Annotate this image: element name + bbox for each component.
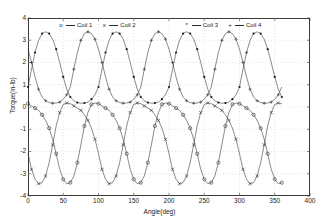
legend-marker-circle-icon: o xyxy=(58,22,64,28)
legend-item-coil-1[interactable]: o Coil 1 xyxy=(58,22,92,28)
x-tick-label: 400 xyxy=(296,198,319,205)
legend-label: Coil 4 xyxy=(246,22,261,28)
y-axis-label: Torque(in-lb) xyxy=(9,56,16,136)
legend-item-coil-4[interactable]: + Coil 4 xyxy=(227,22,261,28)
legend-marker-plus-icon: + xyxy=(227,22,233,28)
legend-item-coil-3[interactable]: * Coil 3 xyxy=(184,22,218,28)
y-tick-label: 3 xyxy=(6,37,26,44)
legend-marker-star-icon: * xyxy=(184,22,190,28)
y-tick-label: -3 xyxy=(6,171,26,178)
series-2 xyxy=(28,101,282,185)
legend-label: Coil 3 xyxy=(203,22,218,28)
x-tick-label: 100 xyxy=(85,198,113,205)
legend-item-coil-2[interactable]: x Coil 2 xyxy=(101,22,135,28)
legend: o Coil 1 x Coil 2 * Coil 3 + Coil 4 xyxy=(58,20,258,30)
figure-canvas: 4 3 2 1 0 -1 -2 -3 -4 0 50 100 150 200 2… xyxy=(0,0,319,222)
legend-label: Coil 2 xyxy=(120,22,135,28)
grid-lines xyxy=(28,18,310,196)
x-tick-label: 250 xyxy=(190,198,218,205)
x-tick-label: 350 xyxy=(261,198,289,205)
x-axis-label: Angle(deg) xyxy=(0,208,319,215)
y-tick-label: -2 xyxy=(6,148,26,155)
x-tick-label: 300 xyxy=(226,198,254,205)
legend-label: Coil 1 xyxy=(77,22,92,28)
y-tick-label: 4 xyxy=(6,15,26,22)
legend-line-icon xyxy=(109,25,118,26)
plot-svg xyxy=(0,0,319,222)
legend-line-icon xyxy=(66,25,75,26)
x-tick-label: 150 xyxy=(120,198,148,205)
x-tick-label: 0 xyxy=(14,198,42,205)
x-tick-label: 200 xyxy=(155,198,183,205)
legend-line-icon xyxy=(235,25,244,26)
x-tick-label: 50 xyxy=(49,198,77,205)
legend-line-icon xyxy=(192,25,201,26)
series-4 xyxy=(28,30,282,105)
legend-marker-cross-icon: x xyxy=(101,22,107,28)
